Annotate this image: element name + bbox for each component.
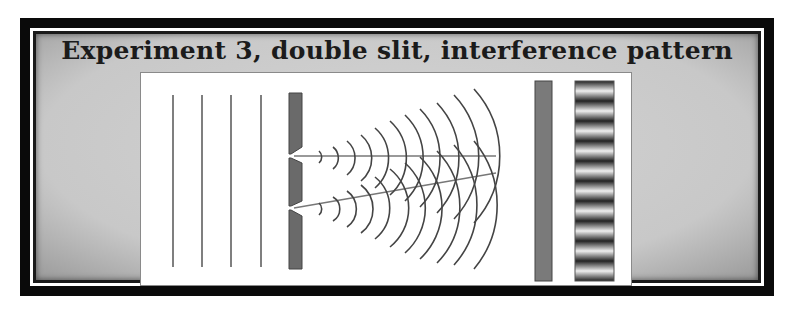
screen-bar	[535, 81, 552, 281]
double-slit-barrier	[289, 93, 302, 269]
slit2-wavefronts	[319, 141, 497, 269]
outer-frame: Experiment 3, double slit, interference …	[20, 18, 774, 296]
slide-title: Experiment 3, double slit, interference …	[36, 36, 758, 65]
diagram-panel	[140, 72, 632, 286]
slide-background: Experiment 3, double slit, interference …	[36, 34, 758, 280]
slit-rays	[294, 156, 496, 208]
double-slit-diagram	[141, 73, 631, 285]
frame-gap: Experiment 3, double slit, interference …	[30, 28, 764, 286]
inner-frame: Experiment 3, double slit, interference …	[33, 31, 761, 283]
interference-pattern	[575, 81, 614, 281]
plane-wavefronts	[173, 95, 261, 267]
